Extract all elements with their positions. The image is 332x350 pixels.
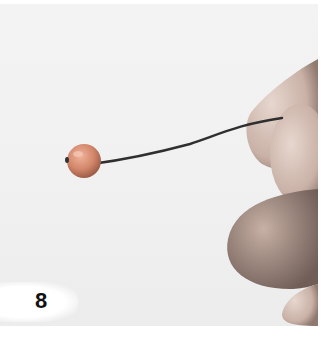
step-number: 8: [35, 288, 47, 314]
hand-holding-headpin-illustration: [0, 4, 318, 326]
bead: [67, 144, 101, 178]
step-photo: [0, 4, 318, 326]
thumb: [227, 189, 318, 289]
